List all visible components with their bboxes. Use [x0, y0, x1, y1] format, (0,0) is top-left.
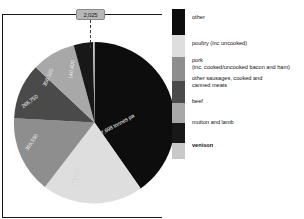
legend-item-label: mutton and lamb: [192, 119, 234, 125]
legend-item-label: other: [192, 14, 205, 20]
legend-item-label: other sausages, cooked and: [192, 75, 262, 81]
callout-venison-value: 2,025: [76, 9, 105, 20]
legend-swatch-2[interactable]: [172, 57, 185, 81]
legend-item-4[interactable]: beef: [192, 98, 203, 105]
legend-item-5[interactable]: mutton and lamb: [192, 119, 234, 126]
legend-swatch-0[interactable]: [172, 9, 185, 35]
legend-item-label: poultry (inc uncooked): [192, 40, 247, 46]
pie-chart-svg: [13, 41, 176, 204]
legend-item-label: pork: [192, 57, 203, 63]
legend-item-label-line2: (inc. cooked/uncooked bacon and ham): [192, 64, 290, 71]
legend-color-bar: [172, 9, 185, 159]
legend-item-0[interactable]: other: [192, 14, 205, 21]
legend-item-label: beef: [192, 98, 203, 104]
legend-item-label-line2: canned meats: [192, 82, 262, 89]
pie-slices: [14, 42, 175, 203]
legend-item-2[interactable]: pork(inc. cooked/uncooked bacon and ham): [192, 57, 290, 71]
legend-item-label: venison: [192, 142, 213, 148]
legend-swatch-5[interactable]: [172, 123, 185, 143]
legend-item-3[interactable]: other sausages, cooked andcanned meats: [192, 75, 262, 89]
legend-item-6[interactable]: venison: [192, 142, 213, 149]
callout-leader-line: [90, 20, 91, 48]
legend-swatch-1[interactable]: [172, 35, 185, 57]
legend-swatch-6[interactable]: [172, 143, 185, 159]
pie-chart: [13, 41, 176, 204]
legend: otherpoultry (inc uncooked)pork(inc. coo…: [172, 9, 300, 161]
legend-swatch-4[interactable]: [172, 103, 185, 123]
legend-swatch-3[interactable]: [172, 81, 185, 103]
legend-item-1[interactable]: poultry (inc uncooked): [192, 40, 247, 47]
